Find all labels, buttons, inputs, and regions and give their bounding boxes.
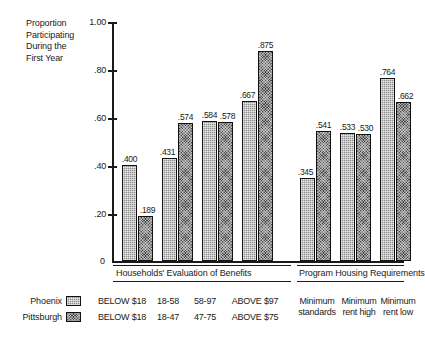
bar-pittsburgh-5[interactable] [218, 122, 233, 261]
group-title-housing: Program Housing Requirements [299, 268, 425, 278]
legend-label-phoenix: Phoenix [0, 296, 62, 306]
category-label-housing-0-line1: Minimum [296, 296, 338, 307]
group-title-households: Households' Evaluation of Benefits [116, 268, 251, 278]
bar-value-label: .875 [251, 40, 281, 50]
bar-value-label: .189 [133, 205, 163, 215]
y-axis-caption-line: First Year [26, 53, 98, 65]
plot-area: .400.189.431.574.584.578.667.875.345.541… [112, 23, 404, 263]
y-axis-caption-line: During the [26, 41, 98, 53]
bar-phoenix-4[interactable] [202, 121, 217, 261]
category-label-pittsburgh-1: 18-47 [150, 312, 186, 322]
bar-pittsburgh-11[interactable] [356, 134, 371, 261]
category-label-pittsburgh-3: ABOVE $75 [224, 312, 286, 322]
bar-phoenix-8[interactable] [300, 178, 315, 261]
bar-phoenix-12[interactable] [380, 78, 395, 261]
bar-pittsburgh-1[interactable] [138, 216, 153, 261]
bar-pittsburgh-7[interactable] [258, 51, 273, 261]
legend-swatch-pittsburgh [66, 312, 81, 322]
category-label-housing-2-line2: rent low [377, 307, 419, 318]
category-label-housing-1-line1: Minimum [337, 296, 381, 307]
legend: Phoenix BELOW $18 18-58 58-97 ABOVE $97 … [0, 296, 411, 328]
category-label-phoenix-3: ABOVE $97 [224, 296, 286, 306]
bar-pittsburgh-9[interactable] [316, 131, 331, 261]
bar-pittsburgh-13[interactable] [396, 102, 411, 261]
category-label-phoenix-2: 58-97 [187, 296, 223, 306]
category-label-phoenix-1: 18-58 [150, 296, 186, 306]
group-right-underline [297, 281, 404, 282]
bar-group-container: .400.189.431.574.584.578.667.875.345.541… [112, 23, 404, 261]
category-label-housing-0: Minimum standards [296, 296, 338, 317]
category-label-housing-2-line1: Minimum [377, 296, 419, 307]
y-axis-tick-label: .40 [0, 161, 106, 171]
legend-label-pittsburgh: Pittsburgh [0, 312, 62, 322]
bar-value-label: .530 [351, 123, 381, 133]
bar-phoenix-2[interactable] [162, 158, 177, 261]
bar-phoenix-10[interactable] [340, 133, 355, 261]
y-axis-tick-label: .60 [0, 113, 106, 123]
bar-value-label: .578 [213, 111, 243, 121]
group-right-rule [297, 265, 404, 266]
category-label-housing-0-line2: standards [296, 307, 338, 318]
x-axis-line [112, 261, 404, 263]
y-axis-zero-label: 0 [100, 256, 105, 266]
category-label-phoenix-0: BELOW $18 [94, 296, 150, 306]
bar-value-label: .400 [115, 154, 145, 164]
group-left-underline [113, 281, 291, 282]
bar-phoenix-6[interactable] [242, 101, 257, 261]
y-axis-tick-label: .80 [0, 65, 106, 75]
y-axis-caption-line: Participating [26, 30, 98, 42]
category-label-housing-1-line2: rent high [337, 307, 381, 318]
y-axis-tick-label: 1.00 [0, 17, 106, 27]
category-label-housing-2: Minimum rent low [377, 296, 419, 317]
legend-swatch-phoenix [66, 296, 81, 306]
group-left-rule [113, 265, 291, 266]
category-label-pittsburgh-0: BELOW $18 [94, 312, 150, 322]
bar-value-label: .764 [373, 67, 403, 77]
bar-value-label: .662 [391, 91, 421, 101]
y-axis-tick-label: .20 [0, 209, 106, 219]
category-label-housing-1: Minimum rent high [337, 296, 381, 317]
bar-pittsburgh-3[interactable] [178, 123, 193, 261]
category-label-pittsburgh-2: 47-75 [187, 312, 223, 322]
